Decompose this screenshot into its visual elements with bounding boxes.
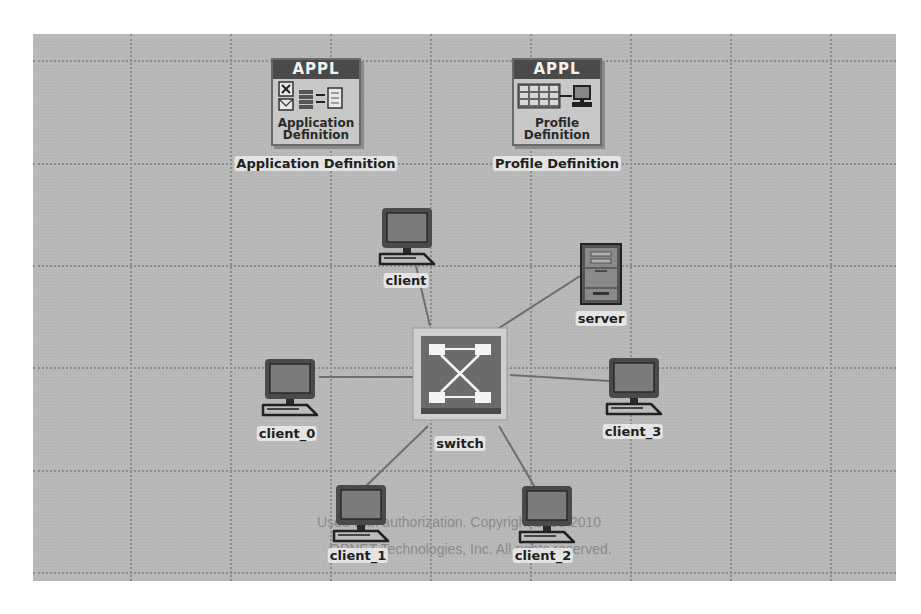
- workstation-icon: [259, 357, 319, 419]
- switch-icon: [411, 326, 511, 426]
- label-profile-definition: Profile Definition: [493, 156, 621, 171]
- application-config-icon: APPL Application Definition: [271, 58, 361, 146]
- label-server: server: [576, 311, 627, 326]
- server-icon: [579, 242, 623, 306]
- node-client-3[interactable]: [603, 356, 663, 418]
- workstation-icon: [603, 356, 663, 418]
- appl-inner-title: Profile Definition: [514, 117, 600, 141]
- node-client-2[interactable]: [516, 484, 576, 546]
- appl-inner-title: Application Definition: [273, 117, 359, 141]
- label-switch: switch: [434, 436, 485, 451]
- profile-config-icon: APPL Profile Definition: [512, 58, 602, 146]
- label-client-1: client_1: [328, 548, 388, 563]
- node-client-1[interactable]: [330, 483, 390, 545]
- label-client-0: client_0: [257, 426, 317, 441]
- link-switch-client-3[interactable]: [510, 375, 609, 381]
- workstation-icon: [516, 484, 576, 546]
- node-client[interactable]: [376, 206, 436, 268]
- node-client-0[interactable]: [259, 357, 319, 419]
- label-client-3: client_3: [603, 424, 663, 439]
- node-switch[interactable]: [411, 326, 511, 426]
- label-client: client: [384, 273, 429, 288]
- node-application-definition[interactable]: APPL Application Definition: [271, 58, 363, 150]
- appl-badge: APPL: [514, 60, 600, 79]
- node-profile-definition[interactable]: APPL Profile Definition: [512, 58, 604, 150]
- appl-inner-line2: Definition: [514, 129, 600, 141]
- application-glyphs-icon: [273, 80, 359, 120]
- appl-badge: APPL: [273, 60, 359, 79]
- link-switch-client-2[interactable]: [499, 426, 536, 489]
- link-switch-client-1[interactable]: [363, 426, 428, 489]
- workstation-icon: [376, 206, 436, 268]
- label-application-definition: Application Definition: [234, 156, 397, 171]
- profile-glyphs-icon: [514, 80, 600, 120]
- network-canvas[interactable]: Used with authorization. Copyright 1986-…: [33, 34, 896, 581]
- workstation-icon: [330, 483, 390, 545]
- appl-inner-line2: Definition: [273, 129, 359, 141]
- links-layer: [33, 34, 896, 581]
- label-client-2: client_2: [513, 548, 573, 563]
- node-server[interactable]: [579, 242, 623, 306]
